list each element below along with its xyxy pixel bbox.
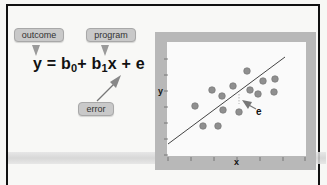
residual-arrow-icon xyxy=(242,100,252,109)
residual-label: e xyxy=(256,106,262,117)
regression-line xyxy=(168,57,285,144)
scatter-plot xyxy=(0,0,327,185)
x-axis-ticks xyxy=(168,157,305,161)
y-axis-ticks xyxy=(164,59,168,155)
data-points xyxy=(192,68,279,130)
